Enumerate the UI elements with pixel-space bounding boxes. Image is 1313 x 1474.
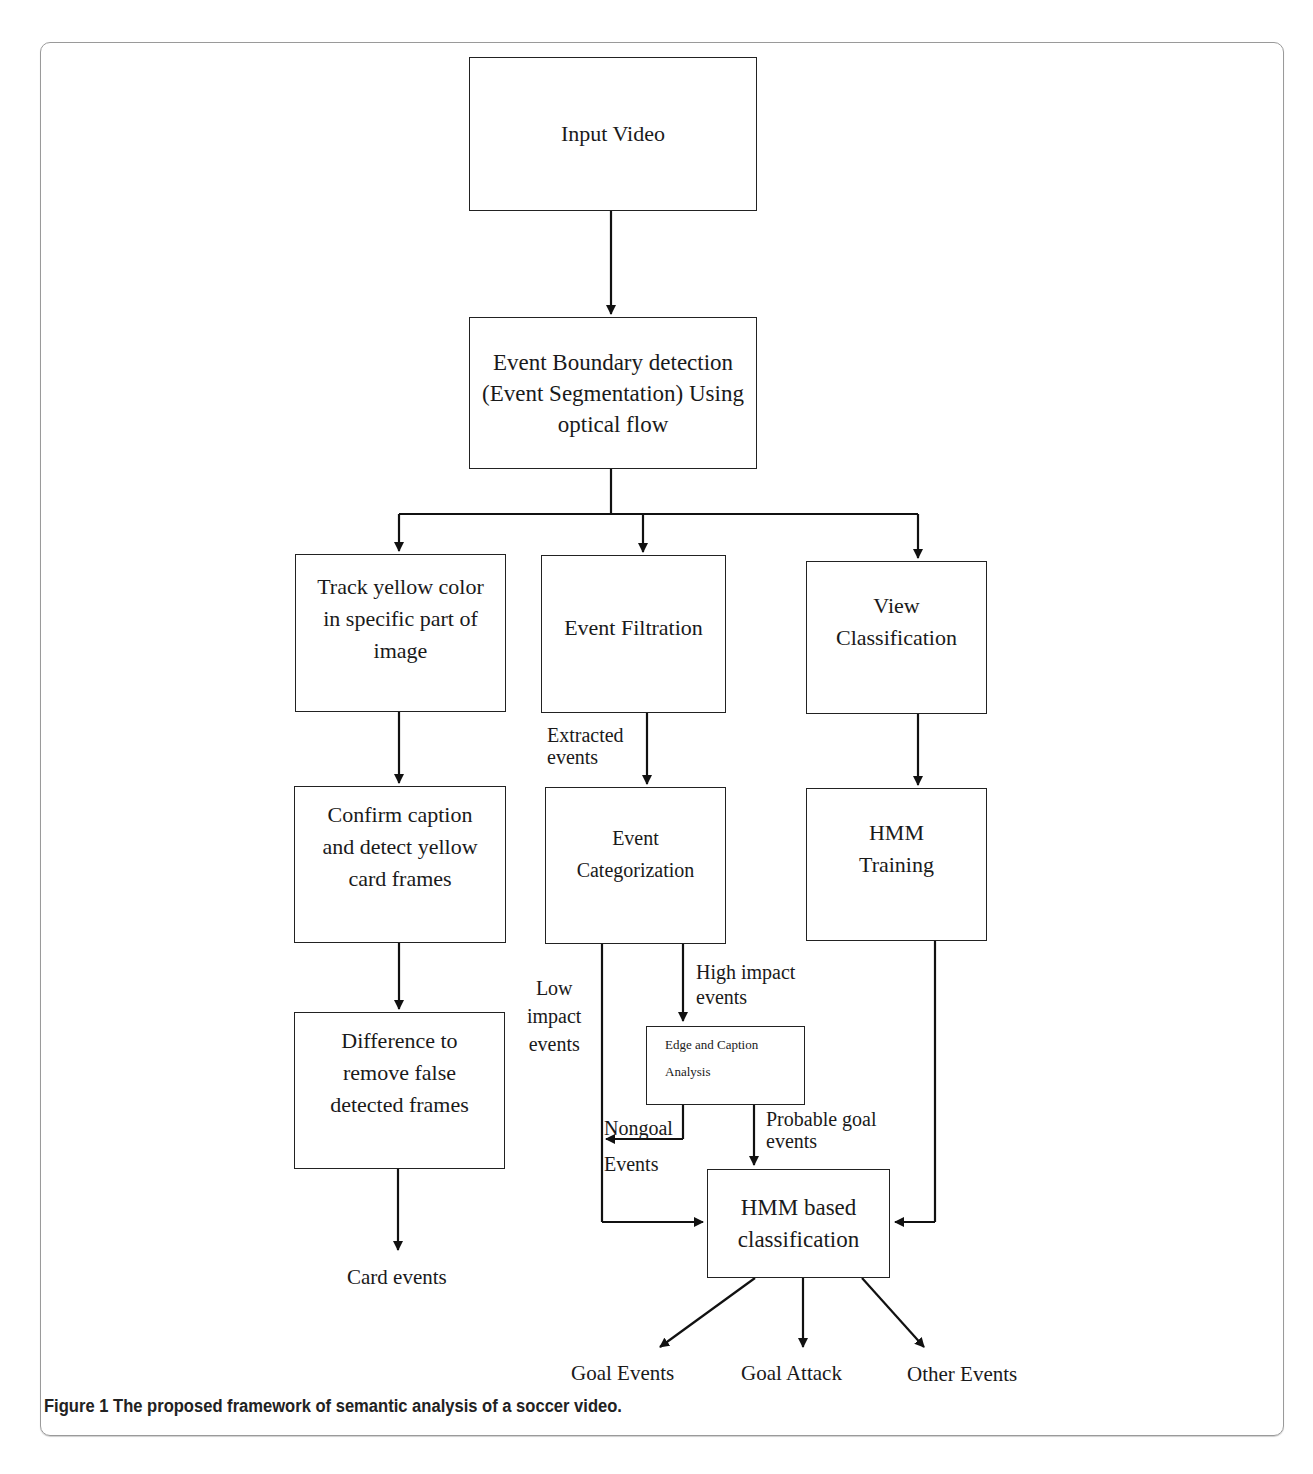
event-boundary-line-2: (Event Segmentation) Using [482, 378, 744, 409]
view-classification-box: View Classification [806, 561, 987, 714]
confirm-caption-line-1: Confirm caption [322, 799, 477, 831]
connector-arrows [0, 0, 1313, 1474]
hmm-classification-line-2: classification [738, 1224, 859, 1256]
probable-goal-line-2: events [766, 1130, 877, 1152]
event-categorization-box: Event Categorization [545, 787, 726, 944]
edge-caption-line-1: Edge and Caption [665, 1031, 758, 1058]
difference-line-1: Difference to [330, 1025, 469, 1057]
view-classification-line-1: View [836, 590, 957, 622]
card-events-output: Card events [347, 1265, 447, 1290]
low-impact-events-label: Low impact events [527, 974, 581, 1058]
hmm-classification-line-1: HMM based [738, 1192, 859, 1224]
figure-caption-text: The proposed framework of semantic analy… [113, 1396, 622, 1416]
probable-goal-line-1: Probable goal [766, 1108, 877, 1130]
event-filtration-label: Event Filtration [564, 612, 703, 644]
difference-remove-false-box: Difference to remove false detected fram… [294, 1012, 505, 1169]
confirm-caption-box: Confirm caption and detect yellow card f… [294, 786, 506, 943]
event-categorization-line-2: Categorization [577, 854, 695, 886]
high-impact-line-2: events [696, 985, 795, 1010]
goal-events-output: Goal Events [571, 1361, 674, 1386]
track-yellow-line-1: Track yellow color [317, 571, 484, 603]
edge-caption-line-2: Analysis [665, 1058, 758, 1085]
extracted-events-label: Extracted events [547, 724, 624, 768]
low-impact-line-1: Low [527, 974, 581, 1002]
nongoal-line-2: Events [604, 1146, 673, 1182]
input-video-box: Input Video [469, 57, 757, 211]
probable-goal-events-label: Probable goal events [766, 1108, 877, 1152]
goal-attack-output: Goal Attack [741, 1361, 842, 1386]
hmm-training-box: HMM Training [806, 788, 987, 941]
event-filtration-box: Event Filtration [541, 555, 726, 713]
track-yellow-line-2: in specific part of [317, 603, 484, 635]
extracted-events-line-1: Extracted [547, 724, 624, 746]
nongoal-events-label: Nongoal Events [604, 1110, 673, 1182]
figure-caption-label: Figure 1 [44, 1396, 108, 1416]
difference-line-3: detected frames [330, 1089, 469, 1121]
difference-line-2: remove false [330, 1057, 469, 1089]
track-yellow-line-3: image [317, 635, 484, 667]
confirm-caption-line-3: card frames [322, 863, 477, 895]
high-impact-line-1: High impact [696, 960, 795, 985]
event-boundary-line-1: Event Boundary detection [482, 347, 744, 378]
input-video-label: Input Video [561, 118, 665, 150]
nongoal-line-1: Nongoal [604, 1110, 673, 1146]
low-impact-line-2: impact [527, 1002, 581, 1030]
extracted-events-line-2: events [547, 746, 624, 768]
hmm-training-line-1: HMM [859, 817, 934, 849]
high-impact-events-label: High impact events [696, 960, 795, 1010]
edge-caption-analysis-box: Edge and Caption Analysis [646, 1026, 805, 1105]
confirm-caption-line-2: and detect yellow [322, 831, 477, 863]
track-yellow-color-box: Track yellow color in specific part of i… [295, 554, 506, 712]
event-categorization-line-1: Event [577, 822, 695, 854]
hmm-based-classification-box: HMM based classification [707, 1169, 890, 1278]
low-impact-line-3: events [527, 1030, 581, 1058]
view-classification-line-2: Classification [836, 622, 957, 654]
hmm-training-line-2: Training [859, 849, 934, 881]
event-boundary-line-3: optical flow [482, 409, 744, 440]
figure-caption: Figure 1 The proposed framework of seman… [44, 1396, 622, 1417]
other-events-output: Other Events [907, 1362, 1017, 1387]
event-boundary-detection-box: Event Boundary detection (Event Segmenta… [469, 317, 757, 469]
